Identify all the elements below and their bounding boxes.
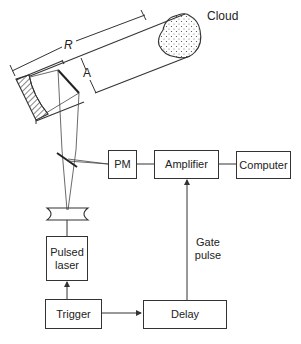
optical-rays <box>30 70 79 210</box>
diverging-lens <box>47 208 88 220</box>
pulsed-laser-block: Pulsed laser <box>46 236 88 281</box>
cloud-shape <box>159 14 201 58</box>
cloud-label: Cloud <box>207 10 238 23</box>
aperture-label: A <box>83 67 91 80</box>
pulsed-laser-line2: laser <box>55 259 79 272</box>
pulsed-laser-line1: Pulsed <box>50 246 84 259</box>
pm-block: PM <box>108 150 137 179</box>
gate-pulse-line2: pulse <box>193 249 223 262</box>
trigger-block: Trigger <box>45 299 102 329</box>
range-label: R <box>64 39 73 52</box>
secondary-mirror <box>58 70 79 93</box>
amplifier-block: Amplifier <box>154 150 219 179</box>
primary-mirror <box>16 75 48 124</box>
computer-block: Computer <box>236 151 291 179</box>
gate-pulse-line1: Gate <box>193 236 223 249</box>
gate-pulse-label: Gate pulse <box>193 236 223 262</box>
delay-block: Delay <box>143 300 227 329</box>
range-dimension <box>10 10 146 76</box>
